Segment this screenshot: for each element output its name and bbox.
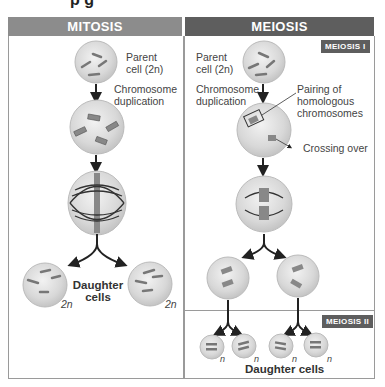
meiosis-daughter-label: Daughter cells (245, 363, 324, 375)
meiosis-ploidy-4: n (327, 353, 332, 365)
meiosis-ploidy-1: n (220, 353, 225, 365)
diagram-graphics (0, 0, 385, 387)
meiosis-ii-tag: MEIOSIS II (322, 315, 373, 328)
meiosis-i-tag: MEIOSIS I (321, 40, 370, 53)
pairing-label: Pairing of homologous chromosomes (297, 83, 363, 119)
mitosis-ploidy-left: 2n (61, 298, 73, 310)
mitosis-metaphase-cell (68, 171, 126, 235)
meiosis-i-daughter-right (277, 255, 319, 297)
mitosis-duplicated-cell (70, 100, 124, 154)
mitosis-duplication-label: Chromosome duplication (114, 83, 177, 107)
meiosis-parent-label: Parent cell (2n) (196, 51, 233, 75)
mitosis-ploidy-right: 2n (165, 298, 177, 310)
meiosis-parent-cell (243, 41, 285, 83)
meiosis-metaphase-cell (236, 176, 292, 232)
mitosis-daughter-label: Daughter cells (72, 279, 124, 303)
mitosis-parent-cell (75, 41, 117, 83)
mitosis-parent-label: Parent cell (2n) (126, 51, 163, 75)
crossing-over-label: Crossing over (303, 142, 368, 154)
meiosis-duplication-label: Chromosome duplication (196, 83, 259, 107)
meiosis-i-daughter-left (207, 257, 249, 299)
